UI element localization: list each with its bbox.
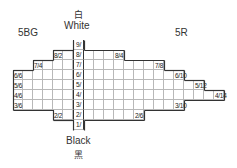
munsell-value-chroma-grid: 9/8/7/6/5/4/3/2/1/8/27/46/65/64/63/62/28… [0,0,237,168]
boundary-outline [0,0,237,168]
